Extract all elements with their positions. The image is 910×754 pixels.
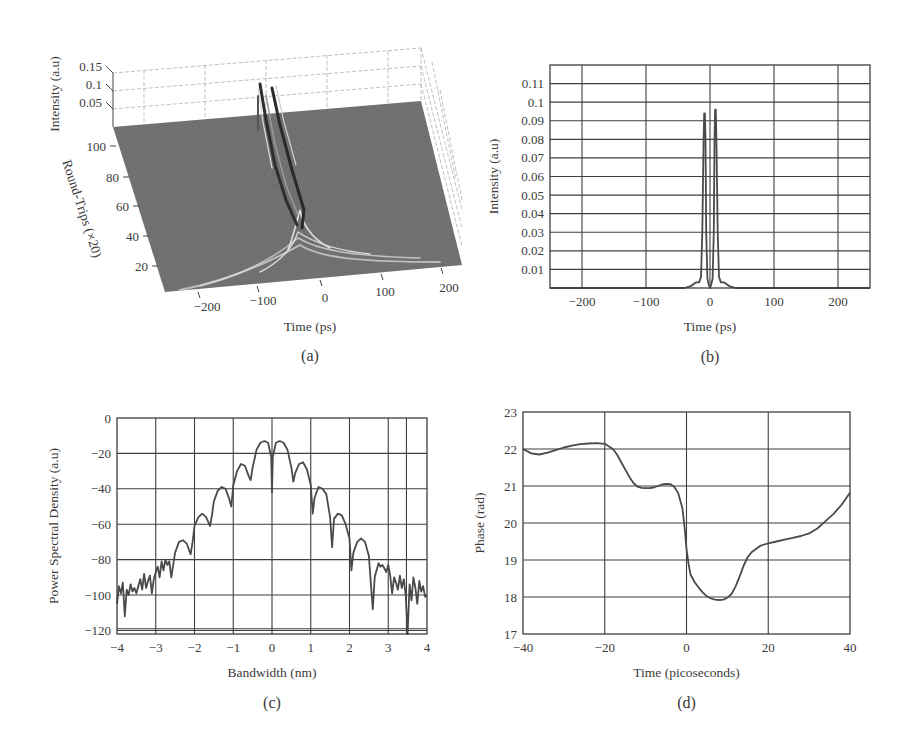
y-tick-label: 0.06 xyxy=(521,169,544,184)
x-tick: 100 xyxy=(375,284,395,299)
z-tick: 0.05 xyxy=(79,95,102,110)
x-axis-label: Time (ps) xyxy=(284,319,336,334)
panel-caption: (b) xyxy=(701,348,720,366)
x-tick-label: 40 xyxy=(844,640,857,655)
y-tick-label: 0.07 xyxy=(521,150,544,165)
z-tick: 0.1 xyxy=(86,77,102,92)
y-tick-label: 0.01 xyxy=(521,262,544,277)
panel-caption: (a) xyxy=(301,347,319,365)
x-axis-label: Time (ps) xyxy=(684,319,736,334)
panel-b-intensity-plot: −200−10001002000.010.020.030.040.050.060… xyxy=(486,65,870,366)
y-tick-label: 18 xyxy=(504,590,517,605)
y-tick-label: 23 xyxy=(504,405,517,420)
y-tick-label: 0.09 xyxy=(521,113,544,128)
y-tick-label: 0.02 xyxy=(521,243,544,258)
x-tick-label: 3 xyxy=(385,640,392,655)
x-tick-label: −1 xyxy=(226,640,240,655)
panel-caption: (d) xyxy=(677,694,696,712)
y-tick-label: −80 xyxy=(91,552,111,567)
x-tick-label: 200 xyxy=(828,294,848,309)
y-tick-label: −100 xyxy=(84,588,111,603)
x-tick: 200 xyxy=(439,280,459,295)
x-tick-label: 100 xyxy=(764,294,784,309)
x-axis-label: Time (picoseconds) xyxy=(633,665,739,680)
panel-d-phase-plot: −40−200204017181920212223Time (picosecon… xyxy=(472,405,857,713)
y-tick-label: 21 xyxy=(504,479,517,494)
y-tick-label: 20 xyxy=(504,516,517,531)
y-tick-label: 0.11 xyxy=(522,76,544,91)
x-tick-label: −2 xyxy=(188,640,202,655)
x-tick-label: −100 xyxy=(633,294,660,309)
panel-c-spectrum-plot: −4−3−2−1012340−20−40−60−80−100−120Bandwi… xyxy=(46,411,431,713)
y-axis-label: Power Spectral Density (a.u) xyxy=(46,448,61,604)
x-tick: −100 xyxy=(250,293,277,308)
y-tick-label: −20 xyxy=(91,446,111,461)
y-tick-label: −40 xyxy=(91,481,111,496)
panel-a-surface-plot: 0.15 0.1 0.05 Intensity (a.u) 100 80 60 xyxy=(47,48,462,365)
x-tick-label: 0 xyxy=(269,640,276,655)
y-tick-label: 17 xyxy=(504,627,518,642)
y-tick-label: 0.03 xyxy=(521,225,544,240)
y-tick: 80 xyxy=(106,170,119,185)
x-tick-label: 4 xyxy=(424,640,431,655)
y-tick-label: 0.08 xyxy=(521,132,544,147)
y-tick: 20 xyxy=(135,259,148,274)
x-tick-label: 1 xyxy=(308,640,315,655)
y-tick-label: −60 xyxy=(91,517,111,532)
y-tick-label: 22 xyxy=(504,442,517,457)
y-tick-label: 0.1 xyxy=(528,95,544,110)
y-axis-label: Intensity (a.u) xyxy=(486,139,501,215)
panel-caption: (c) xyxy=(263,694,281,712)
figure-canvas: 0.15 0.1 0.05 Intensity (a.u) 100 80 60 xyxy=(0,0,910,754)
panel-a-z-axis: 0.15 0.1 0.05 Intensity (a.u) xyxy=(47,56,113,132)
x-tick: −200 xyxy=(194,299,221,314)
x-axis-label: Bandwidth (nm) xyxy=(228,665,317,680)
y-axis-label: Phase (rad) xyxy=(472,492,487,553)
x-tick-label: −20 xyxy=(595,640,615,655)
x-tick-label: −200 xyxy=(569,294,596,309)
x-tick-label: −40 xyxy=(513,640,533,655)
x-tick: 0 xyxy=(322,290,329,305)
y-tick-label: 0 xyxy=(105,411,112,426)
x-tick-label: −3 xyxy=(149,640,163,655)
y-tick-label: 19 xyxy=(504,553,517,568)
x-tick-label: 20 xyxy=(762,640,775,655)
y-tick: 40 xyxy=(126,229,139,244)
y-tick-label: 0.04 xyxy=(521,206,544,221)
surface-floor xyxy=(113,101,462,292)
x-tick-label: 0 xyxy=(707,294,714,309)
y-tick-label: −120 xyxy=(84,623,111,638)
x-tick-label: 2 xyxy=(346,640,353,655)
y-tick: 60 xyxy=(116,199,129,214)
z-axis-label: Intensity (a.u) xyxy=(47,56,62,132)
y-tick-label: 0.05 xyxy=(521,188,544,203)
y-axis-label: Round-Trips (×20) xyxy=(59,158,105,260)
x-tick-label: 0 xyxy=(683,640,690,655)
z-tick: 0.15 xyxy=(79,59,102,74)
x-tick-label: −4 xyxy=(110,640,124,655)
y-tick: 100 xyxy=(87,139,107,154)
